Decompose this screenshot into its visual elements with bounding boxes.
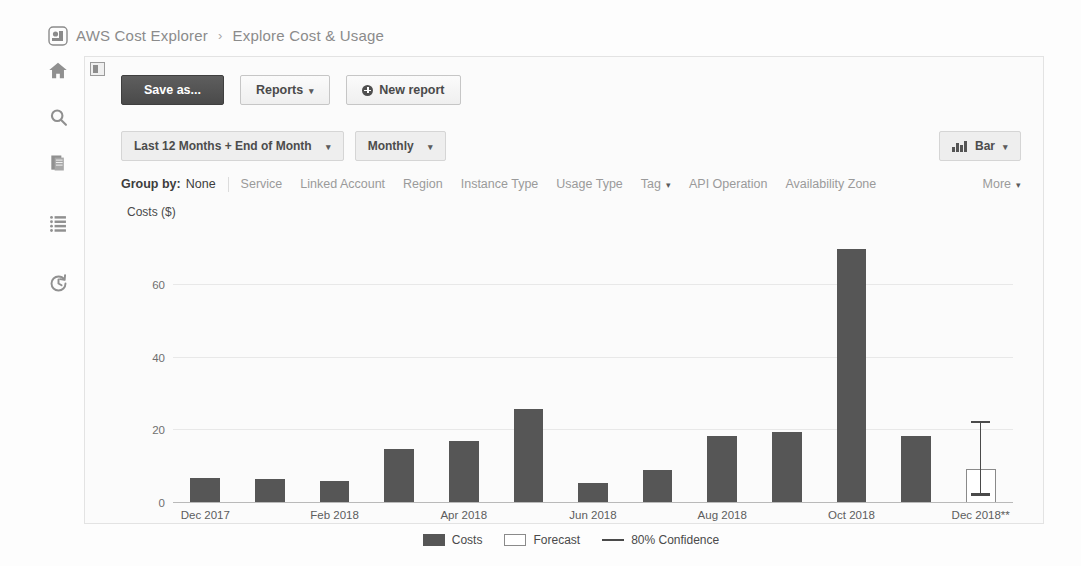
confidence-whisker [980, 423, 981, 496]
bar-cost[interactable] [449, 441, 479, 503]
group-by-item-linked-account[interactable]: Linked Account [300, 177, 385, 191]
group-by-divider [228, 177, 229, 192]
report-controls: Last 12 Months + End of Month ▾ Monthly … [121, 131, 1021, 161]
legend-swatch-solid [423, 534, 445, 546]
y-axis-title: Costs ($) [127, 205, 176, 219]
new-report-label: New report [379, 83, 444, 97]
legend-item[interactable]: Costs [423, 533, 483, 547]
bar-cost[interactable] [190, 478, 220, 503]
cost-explorer-page: AWS Cost Explorer › Explore Cost & Usage [0, 0, 1081, 566]
group-by-label: Group by: [121, 177, 181, 191]
legend-item[interactable]: Forecast [504, 533, 580, 547]
cost-chart: Costs ($) 0204060 Dec 2017Feb 2018Apr 20… [121, 203, 1021, 511]
y-axis-tick-label: 20 [152, 424, 165, 436]
legend-swatch-open [504, 534, 526, 546]
group-by-item-availability-zone[interactable]: Availability Zone [785, 177, 876, 191]
report-toolbar: Save as... Reports ▾ New report [121, 75, 461, 105]
x-axis-tick-label: Dec 2018** [952, 509, 1010, 521]
bar-cost[interactable] [255, 479, 285, 503]
bar-cost[interactable] [578, 483, 608, 503]
x-axis-labels: Dec 2017Feb 2018Apr 2018Jun 2018Aug 2018… [173, 503, 1013, 523]
save-as-label: Save as... [144, 83, 201, 97]
save-as-button[interactable]: Save as... [121, 75, 224, 105]
reports-dropdown-button[interactable]: Reports ▾ [240, 75, 330, 105]
search-icon[interactable] [45, 104, 71, 130]
group-by-more[interactable]: More ▾ [983, 177, 1021, 191]
confidence-cap-high [971, 421, 990, 424]
group-by-item-tag[interactable]: Tag▾ [641, 177, 671, 191]
date-range-value: Last 12 Months + End of Month [134, 139, 312, 153]
group-by-item-label: Instance Type [461, 177, 539, 191]
documents-icon[interactable] [45, 150, 71, 176]
group-by-item-label: Region [403, 177, 443, 191]
chevron-down-icon: ▾ [428, 142, 433, 152]
chart-type-value: Bar [975, 139, 995, 153]
reports-label: Reports [256, 83, 303, 97]
breadcrumb: AWS Cost Explorer › Explore Cost & Usage [48, 25, 384, 45]
y-axis-tick-label: 40 [152, 352, 165, 364]
x-axis-tick-label: Oct 2018 [828, 509, 875, 521]
granularity-value: Monthly [368, 139, 414, 153]
panel-toggle-icon[interactable] [90, 62, 105, 76]
gridline: 20 [173, 429, 1013, 430]
aws-cost-explorer-logo-icon [48, 26, 68, 46]
legend-item[interactable]: 80% Confidence [602, 533, 719, 547]
group-by-item-usage-type[interactable]: Usage Type [556, 177, 622, 191]
bar-cost[interactable] [707, 436, 737, 503]
bar-cost[interactable] [514, 409, 544, 503]
group-by-item-label: Availability Zone [785, 177, 876, 191]
x-axis-tick-label: Feb 2018 [310, 509, 359, 521]
plot-area: 0204060 [173, 231, 1013, 503]
chevron-down-icon: ▾ [666, 180, 671, 190]
group-by-more-label: More [983, 177, 1011, 191]
group-by-bar: Group by: None ServiceLinked AccountRegi… [121, 169, 1021, 199]
plus-circle-icon [362, 85, 373, 96]
bar-cost[interactable] [772, 432, 802, 503]
date-range-select[interactable]: Last 12 Months + End of Month ▾ [121, 131, 344, 161]
granularity-select[interactable]: Monthly ▾ [355, 131, 446, 161]
chart-type-select[interactable]: Bar ▾ [939, 131, 1021, 161]
history-icon[interactable] [45, 270, 71, 296]
legend-label: Costs [452, 533, 483, 547]
group-by-item-label: Tag [641, 177, 661, 191]
new-report-button[interactable]: New report [346, 75, 460, 105]
report-panel: Save as... Reports ▾ New report Last 12 … [84, 56, 1044, 524]
group-by-item-instance-type[interactable]: Instance Type [461, 177, 539, 191]
breadcrumb-root[interactable]: AWS Cost Explorer [76, 27, 208, 44]
bar-cost[interactable] [901, 436, 931, 503]
group-by-item-label: Service [241, 177, 283, 191]
list-icon[interactable] [45, 210, 71, 236]
x-axis-tick-label: Aug 2018 [698, 509, 747, 521]
legend-label: 80% Confidence [631, 533, 719, 547]
bar-cost[interactable] [643, 470, 673, 503]
chevron-down-icon: ▾ [1003, 142, 1008, 152]
group-by-item-service[interactable]: Service [241, 177, 283, 191]
chevron-down-icon: ▾ [1016, 180, 1021, 190]
bar-chart-icon [952, 141, 967, 152]
group-by-items: ServiceLinked AccountRegionInstance Type… [241, 177, 895, 191]
group-by-item-api-operation[interactable]: API Operation [689, 177, 768, 191]
bar-cost[interactable] [384, 449, 414, 503]
group-by-item-label: API Operation [689, 177, 768, 191]
bar-cost[interactable] [320, 481, 350, 503]
y-axis-tick-label: 60 [152, 279, 165, 291]
group-by-item-region[interactable]: Region [403, 177, 443, 191]
legend-label: Forecast [533, 533, 580, 547]
x-axis-tick-label: Dec 2017 [181, 509, 230, 521]
left-rail [38, 54, 78, 524]
chevron-down-icon: ▾ [326, 142, 331, 152]
confidence-cap-low [971, 493, 990, 496]
gridline: 60 [173, 284, 1013, 285]
chevron-down-icon: ▾ [309, 86, 314, 96]
home-icon[interactable] [45, 58, 71, 84]
breadcrumb-separator: › [216, 28, 225, 43]
group-by-item-label: Usage Type [556, 177, 622, 191]
bar-cost[interactable] [837, 249, 867, 503]
group-by-item-label: Linked Account [300, 177, 385, 191]
chart-legend: CostsForecast80% Confidence [121, 533, 1021, 547]
group-by-active[interactable]: None [186, 177, 216, 191]
x-axis-tick-label: Jun 2018 [569, 509, 616, 521]
breadcrumb-current: Explore Cost & Usage [233, 27, 385, 44]
x-axis-tick-label: Apr 2018 [440, 509, 487, 521]
legend-swatch-line [602, 539, 624, 541]
